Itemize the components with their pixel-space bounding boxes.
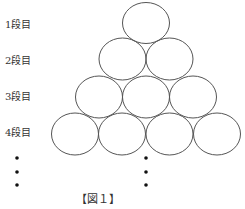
continuation-dot-center-2 [144,170,148,174]
circle-r3-c3 [170,76,217,118]
figure-caption: 【図１】 [76,193,120,206]
circle-r2-c2 [146,38,193,80]
circle-r1-c1 [123,3,170,44]
circle-pyramid-diagram [0,0,245,209]
continuation-dot-left-1 [15,156,19,160]
continuation-dot-center-1 [144,156,148,160]
continuation-dot-left-2 [15,170,19,174]
continuation-dot-left-3 [15,183,19,187]
continuation-dot-center-3 [144,183,148,187]
circle-r2-c1 [99,38,146,80]
circle-r3-c2 [123,76,170,118]
circle-r3-c1 [76,76,123,118]
figure-caption-wrapper: 【図１】 [0,193,245,206]
circle-r4-c1 [52,113,99,155]
circle-r4-c3 [146,113,193,155]
circle-r4-c4 [194,113,241,155]
circle-r4-c2 [99,113,146,155]
